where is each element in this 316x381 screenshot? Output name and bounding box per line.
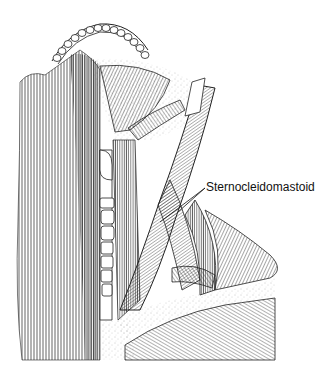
sternocleidomastoid-label: Sternocleidomastoid <box>206 180 315 194</box>
mandible-teeth <box>52 24 149 64</box>
trachea <box>100 150 114 320</box>
anatomy-figure: Sternocleidomastoid <box>0 0 316 381</box>
